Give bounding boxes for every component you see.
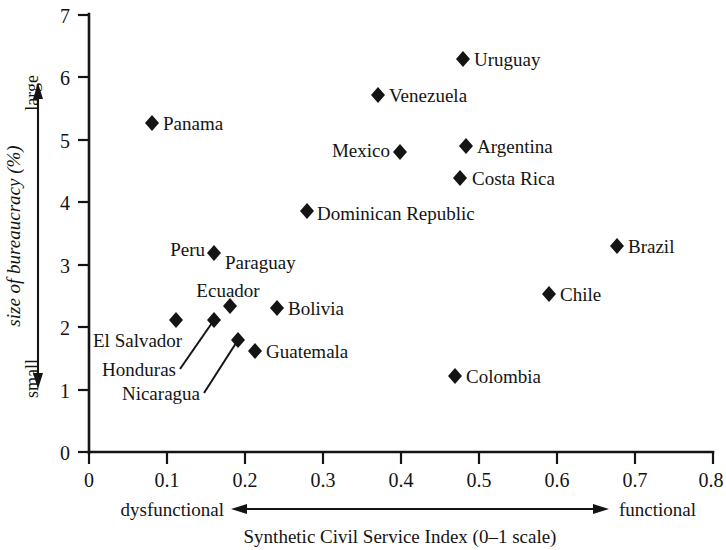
- marker-diamond: [231, 332, 245, 348]
- point-label-dominican-republic: Dominican Republic: [317, 203, 475, 224]
- x-axis-direction-arrow: [231, 504, 609, 514]
- point-label-colombia: Colombia: [466, 366, 542, 387]
- y-tick-label-2: 2: [60, 317, 70, 339]
- x-axis-high-label: functional: [619, 499, 696, 520]
- marker-diamond: [270, 300, 284, 316]
- x-tick-label-0.1: 0.1: [155, 469, 180, 491]
- marker-diamond: [207, 245, 221, 261]
- y-axis-direction-arrow: [33, 83, 43, 389]
- point-label-el-salvador: El Salvador: [93, 330, 183, 351]
- y-axis-ticks: [78, 15, 89, 452]
- marker-diamond: [169, 312, 183, 328]
- point-label-uruguay: Uruguay: [474, 49, 541, 70]
- y-tick-label-5: 5: [60, 130, 70, 152]
- point-label-ecuador: Ecuador: [196, 280, 260, 301]
- y-tick-label-6: 6: [60, 67, 70, 89]
- x-tick-label-0.2: 0.2: [233, 469, 258, 491]
- y-axis-high-label: large: [22, 75, 42, 111]
- point-label-guatemala: Guatemala: [266, 341, 349, 362]
- leader-line-nicaragua: [204, 340, 238, 393]
- data-points: Uruguay Venezuela Panama Argentina Mexic…: [93, 49, 674, 404]
- x-tick-label-0: 0: [84, 469, 94, 491]
- point-label-nicaragua: Nicaragua: [122, 383, 201, 404]
- x-axis-ticks: [89, 452, 713, 464]
- y-tick-label-3: 3: [60, 255, 70, 277]
- x-tick-label-0.3: 0.3: [311, 469, 336, 491]
- x-axis-title: Synthetic Civil Service Index (0–1 scale…: [244, 526, 557, 548]
- x-tick-label-0.7: 0.7: [623, 469, 648, 491]
- y-axis-title: size of bureaucracy (%): [3, 145, 25, 326]
- data-point-bolivia[interactable]: Bolivia: [270, 298, 345, 319]
- point-label-honduras: Honduras: [102, 359, 176, 380]
- point-label-mexico: Mexico: [332, 140, 390, 161]
- scatter-plot-figure: 7 6 5 4 3 2 1 0 0 0.1: [0, 0, 726, 550]
- data-point-uruguay[interactable]: Uruguay: [456, 49, 541, 70]
- y-axis-low-label: small: [22, 359, 42, 398]
- marker-diamond: [453, 170, 467, 186]
- marker-diamond: [448, 368, 462, 384]
- point-label-peru: Peru: [170, 239, 205, 260]
- plot-canvas: 7 6 5 4 3 2 1 0 0 0.1: [0, 0, 726, 550]
- point-label-bolivia: Bolivia: [288, 298, 345, 319]
- data-point-colombia[interactable]: Colombia: [448, 366, 542, 387]
- y-tick-label-0: 0: [60, 442, 70, 464]
- x-tick-label-0.6: 0.6: [545, 469, 570, 491]
- leader-line-honduras: [180, 320, 214, 369]
- point-label-chile: Chile: [560, 284, 601, 305]
- data-point-ecuador[interactable]: Ecuador: [196, 280, 260, 314]
- x-tick-label-0.4: 0.4: [389, 469, 414, 491]
- marker-diamond: [542, 286, 556, 302]
- y-tick-label-7: 7: [60, 5, 70, 27]
- marker-diamond: [371, 87, 385, 103]
- point-label-brazil: Brazil: [628, 236, 674, 257]
- data-point-peru-paraguay[interactable]: Peru Paraguay: [170, 239, 296, 273]
- marker-diamond: [300, 203, 314, 219]
- marker-diamond: [145, 115, 159, 131]
- marker-diamond: [248, 343, 262, 359]
- point-label-venezuela: Venezuela: [389, 85, 468, 106]
- marker-diamond: [456, 51, 470, 67]
- marker-diamond: [459, 138, 473, 154]
- marker-diamond: [393, 144, 407, 160]
- point-label-panama: Panama: [163, 113, 224, 134]
- data-point-argentina[interactable]: Argentina: [459, 136, 553, 157]
- arrow-head-right-icon: [593, 504, 609, 514]
- x-axis: 0 0.1 0.2 0.3 0.4 0.5 0.6 0.7 0.8: [84, 452, 724, 491]
- x-tick-label-0.5: 0.5: [467, 469, 492, 491]
- data-point-mexico[interactable]: Mexico: [332, 140, 407, 161]
- y-axis: 7 6 5 4 3 2 1 0: [60, 5, 89, 464]
- x-tick-label-0.8: 0.8: [699, 469, 724, 491]
- marker-diamond: [610, 238, 624, 254]
- data-point-venezuela[interactable]: Venezuela: [371, 85, 468, 106]
- data-point-guatemala[interactable]: Guatemala: [248, 341, 349, 362]
- data-point-brazil[interactable]: Brazil: [610, 236, 674, 257]
- data-point-dominican-republic[interactable]: Dominican Republic: [300, 203, 475, 224]
- point-label-costa-rica: Costa Rica: [472, 168, 555, 189]
- data-point-el-salvador[interactable]: El Salvador: [93, 312, 183, 351]
- data-point-chile[interactable]: Chile: [542, 284, 601, 305]
- point-label-argentina: Argentina: [477, 136, 553, 157]
- y-tick-label-4: 4: [60, 192, 70, 214]
- x-axis-low-label: dysfunctional: [121, 499, 224, 520]
- data-point-costa-rica[interactable]: Costa Rica: [453, 168, 555, 189]
- data-point-panama[interactable]: Panama: [145, 113, 224, 134]
- arrow-head-left-icon: [231, 504, 247, 514]
- y-tick-label-1: 1: [60, 380, 70, 402]
- point-label-paraguay: Paraguay: [225, 252, 296, 273]
